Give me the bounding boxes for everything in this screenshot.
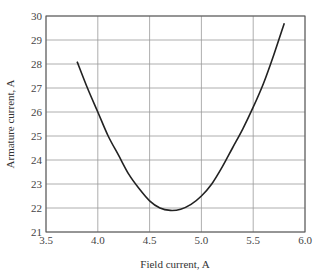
chart: 3.54.04.55.05.56.0 21222324252627282930 … xyxy=(0,0,329,276)
y-tick-label: 28 xyxy=(31,58,43,70)
y-tick-label: 23 xyxy=(31,178,43,190)
y-tick-label: 24 xyxy=(31,154,43,166)
x-tick-label: 4.5 xyxy=(143,234,157,246)
x-tick-label: 5.0 xyxy=(195,234,209,246)
plot-frame xyxy=(46,16,305,232)
y-axis-label: Armature current, A xyxy=(4,80,16,169)
x-tick-label: 5.5 xyxy=(246,234,260,246)
y-tick-label: 26 xyxy=(31,106,43,118)
grid xyxy=(46,16,305,232)
x-tick-label: 4.0 xyxy=(91,234,105,246)
x-axis-label: Field current, A xyxy=(140,258,209,270)
y-tick-label: 25 xyxy=(31,130,43,142)
y-tick-label: 30 xyxy=(31,10,43,22)
y-tick-label: 27 xyxy=(31,82,43,94)
x-tick-label: 6.0 xyxy=(298,234,312,246)
y-tick-label: 22 xyxy=(31,202,42,214)
y-tick-label: 21 xyxy=(31,226,42,238)
x-tick-labels: 3.54.04.55.05.56.0 xyxy=(39,234,312,246)
y-tick-label: 29 xyxy=(31,34,43,46)
y-tick-labels: 21222324252627282930 xyxy=(31,10,43,238)
